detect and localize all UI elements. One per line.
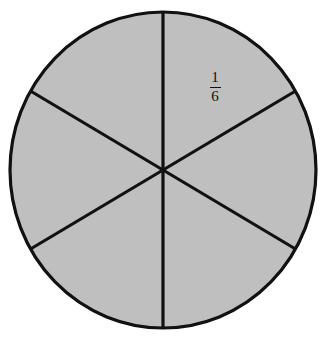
fraction-numerator: 1 bbox=[210, 70, 220, 86]
sector-fraction-label: 1 6 bbox=[204, 70, 226, 104]
fraction-circle-svg bbox=[0, 0, 322, 339]
fraction-circle-figure: 1 6 bbox=[0, 0, 322, 339]
fraction-denominator: 6 bbox=[210, 88, 220, 104]
